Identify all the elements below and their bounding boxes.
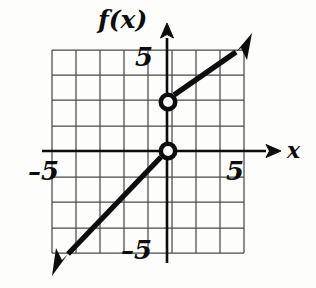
line-segment-right-branch [174, 52, 236, 95]
y-axis-tick-negative-5: –5 [121, 235, 152, 265]
x-axis-tick-positive-5: 5 [226, 156, 244, 186]
x-axis-arrowhead [266, 145, 281, 158]
x-axis-label: x [286, 137, 301, 163]
y-axis-tick-positive-5: 5 [135, 42, 153, 72]
line-arrowhead-lower-left [52, 248, 68, 276]
graph-figure: f(x) x 5 –5 –5 5 [0, 0, 316, 288]
labels: f(x) x 5 –5 –5 5 [28, 5, 301, 265]
y-axis-label: f(x) [96, 5, 147, 34]
open-point-lower [161, 144, 175, 158]
y-axis-arrowhead [161, 23, 174, 38]
coordinate-plane-svg: f(x) x 5 –5 –5 5 [0, 0, 316, 288]
x-axis-tick-negative-5: –5 [28, 156, 59, 186]
axes [42, 23, 281, 263]
open-point-upper [161, 95, 175, 109]
